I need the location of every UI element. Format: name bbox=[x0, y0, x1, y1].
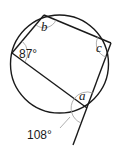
angle-label-bottom: a bbox=[79, 88, 86, 103]
cyclic-quadrilateral-diagram: 87° b c a 108° bbox=[0, 0, 127, 151]
circumcircle bbox=[11, 15, 109, 113]
angle-label-right: c bbox=[96, 40, 102, 55]
angle-label-exterior: 108° bbox=[27, 128, 52, 142]
exterior-label-leader bbox=[60, 117, 70, 128]
angle-label-top: b bbox=[41, 19, 48, 34]
side-top-right bbox=[44, 15, 111, 43]
angle-label-left: 87° bbox=[19, 47, 37, 61]
side-left-bottom bbox=[12, 53, 87, 108]
